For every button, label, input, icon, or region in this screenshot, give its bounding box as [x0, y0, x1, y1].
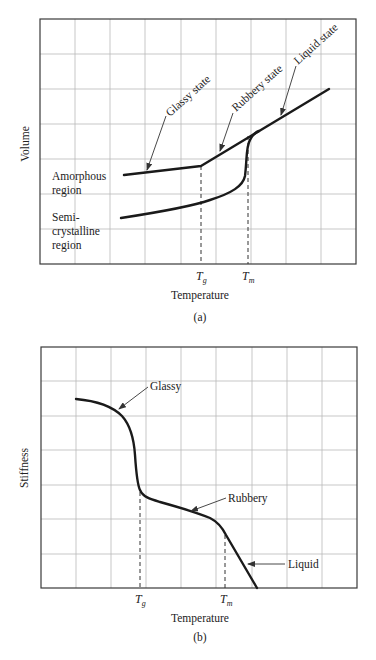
- rubbery-label: Rubbery: [228, 492, 268, 505]
- rubbery-arrow: [191, 498, 226, 511]
- semicrystalline-label-line3: region: [52, 239, 82, 252]
- liquid-label: Liquid: [288, 558, 319, 571]
- amorphous-label-line2: region: [52, 184, 82, 197]
- rubbery-state-arrow: [220, 113, 233, 151]
- caption-a: (a): [194, 311, 207, 324]
- y-axis-label-b: Stiffness: [18, 447, 30, 488]
- liquid-state-label: Liquid state: [291, 21, 340, 67]
- tm-tick-a: Tm: [242, 269, 255, 285]
- glassy-state-label: Glassy state: [163, 73, 213, 120]
- x-axis-label-a: Temperature: [171, 289, 229, 302]
- chart-b-frame: [41, 347, 357, 588]
- tm-tick-b: Tm: [220, 592, 233, 608]
- chart-b-grid: [41, 347, 357, 588]
- y-axis-label-a: Volume: [19, 126, 31, 162]
- semicrystalline-label-line1: Semi-: [52, 211, 80, 223]
- liquid-state-arrow: [281, 66, 296, 115]
- glassy-label: Glassy: [150, 380, 182, 393]
- caption-b: (b): [193, 631, 207, 644]
- rubbery-state-label: Rubbery state: [229, 62, 285, 114]
- chart-b: Glassy Rubbery Liquid Tg Tm Temperature …: [18, 347, 357, 644]
- amorphous-label-line1: Amorphous: [52, 170, 107, 183]
- chart-a: Glassy state Rubbery state Liquid state …: [19, 19, 356, 324]
- semicrystalline-label-line2: crystalline: [52, 225, 100, 238]
- tg-tick-b: Tg: [135, 592, 146, 608]
- figure: Glassy state Rubbery state Liquid state …: [0, 0, 376, 660]
- x-axis-label-b: Temperature: [171, 612, 229, 625]
- tg-tick-a: Tg: [196, 269, 207, 285]
- glassy-arrow: [119, 387, 148, 409]
